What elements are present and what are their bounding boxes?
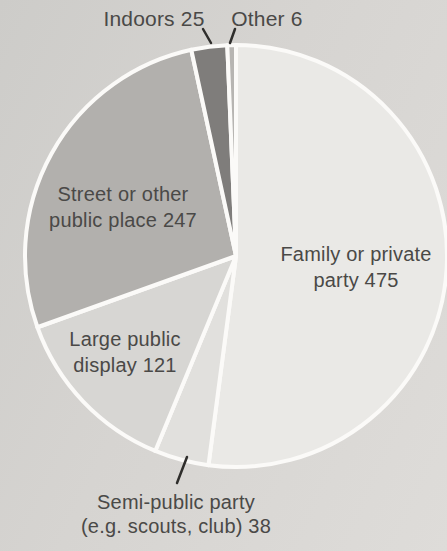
leader-line-indoors	[203, 29, 211, 43]
label-semi-line2: (e.g. scouts, club) 38	[81, 514, 271, 538]
label-other: Other 6	[231, 8, 302, 30]
label-semi-public-party: Semi-public party (e.g. scouts, club) 38	[81, 490, 271, 538]
label-street-line1: Street or other	[49, 181, 197, 207]
label-indoors-text: Indoors 25	[103, 7, 204, 30]
label-family-line1: Family or private	[280, 241, 431, 267]
label-large-line2: display 121	[69, 352, 180, 378]
label-street-public-place: Street or other public place 247	[49, 181, 197, 233]
leader-line-other	[230, 29, 235, 43]
label-family-line2: party 475	[280, 267, 431, 293]
label-semi-line1: Semi-public party	[81, 490, 271, 514]
pie-chart-figure: Indoors 25 Other 6 Street or other publi…	[0, 0, 447, 551]
label-family-private-party: Family or private party 475	[280, 241, 431, 293]
label-indoors: Indoors 25	[103, 8, 204, 30]
label-other-text: Other 6	[231, 7, 302, 30]
label-large-line1: Large public	[69, 326, 180, 352]
label-street-line2: public place 247	[49, 207, 197, 233]
label-large-public-display: Large public display 121	[69, 326, 180, 378]
